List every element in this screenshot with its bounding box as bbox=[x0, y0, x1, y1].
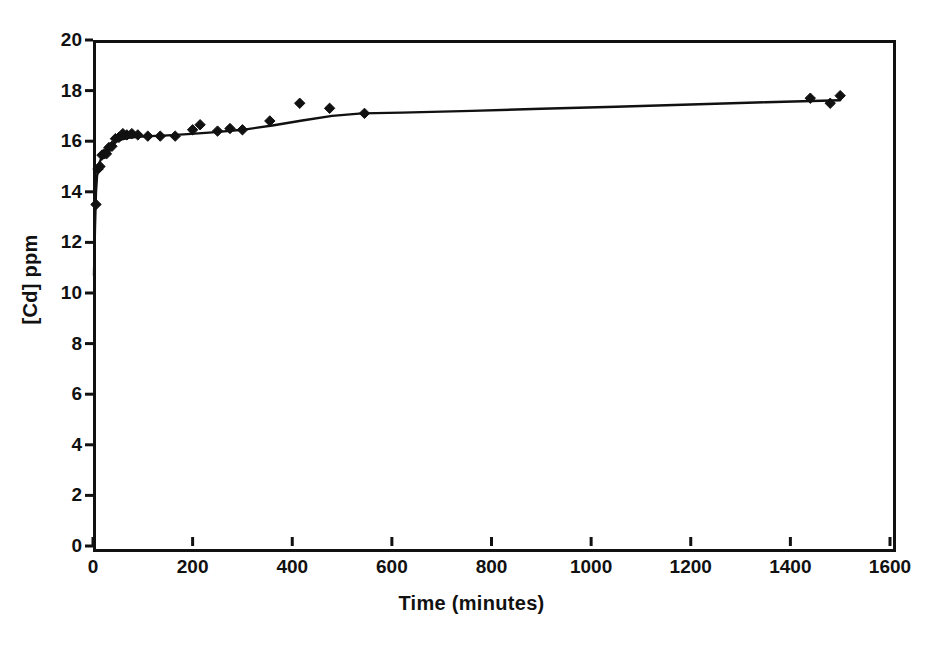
y-tick-label: 10 bbox=[61, 283, 82, 302]
y-tick-label: 14 bbox=[61, 182, 82, 201]
y-axis-title: [Cd] ppm bbox=[19, 220, 42, 340]
y-tick-label: 6 bbox=[71, 384, 82, 403]
y-tick-label: 18 bbox=[61, 81, 82, 100]
x-tick-label: 600 bbox=[376, 557, 408, 576]
y-tick-label: 16 bbox=[61, 131, 82, 150]
x-tick-label: 1200 bbox=[670, 557, 712, 576]
x-tick-label: 1600 bbox=[869, 557, 911, 576]
x-axis-tick-labels: 02004006008001000120014001600 bbox=[0, 557, 943, 585]
x-tick-label: 1400 bbox=[769, 557, 811, 576]
y-axis-tick-labels: 02468101214161820 bbox=[40, 0, 82, 645]
x-axis-title: Time (minutes) bbox=[0, 592, 943, 615]
y-tick-label: 8 bbox=[71, 334, 82, 353]
y-tick-label: 4 bbox=[71, 435, 82, 454]
y-tick-label: 0 bbox=[71, 536, 82, 555]
model-curve bbox=[94, 100, 840, 275]
data-point-markers bbox=[91, 90, 846, 209]
x-axis-ticks bbox=[93, 537, 890, 546]
y-tick-label: 2 bbox=[71, 485, 82, 504]
y-axis-ticks bbox=[85, 40, 93, 546]
x-tick-label: 800 bbox=[476, 557, 508, 576]
chart-canvas bbox=[0, 0, 943, 645]
chart-figure: 02468101214161820 0200400600800100012001… bbox=[0, 0, 943, 645]
y-tick-label: 20 bbox=[61, 30, 82, 49]
x-tick-label: 0 bbox=[88, 557, 99, 576]
x-tick-label: 400 bbox=[276, 557, 308, 576]
y-tick-label: 12 bbox=[61, 232, 82, 251]
x-tick-label: 200 bbox=[177, 557, 209, 576]
x-tick-label: 1000 bbox=[570, 557, 612, 576]
